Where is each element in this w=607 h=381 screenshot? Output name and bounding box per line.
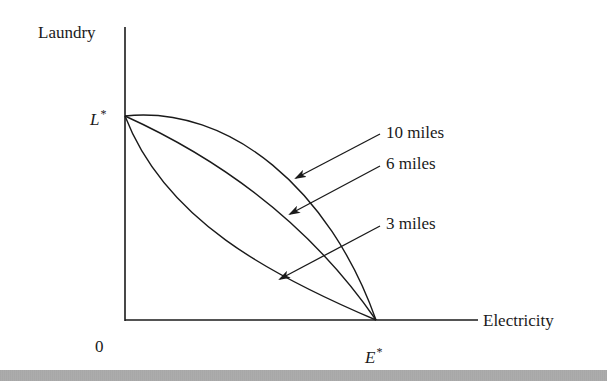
origin-label: 0 bbox=[95, 338, 104, 355]
arrow-3-miles bbox=[280, 226, 380, 279]
arrow-6-miles bbox=[290, 166, 380, 214]
production-possibilities-diagram: Laundry Electricity 0 L* E* 10 miles 6 m… bbox=[0, 0, 607, 381]
curve-6-miles bbox=[125, 116, 376, 320]
arrow-10-miles bbox=[296, 134, 380, 178]
y-intercept-label: L* bbox=[90, 108, 106, 128]
x-intercept-label: E* bbox=[365, 346, 382, 366]
curve-label-6-miles: 6 miles bbox=[386, 155, 436, 172]
x-axis-label: Electricity bbox=[483, 312, 554, 329]
curve-10-miles bbox=[125, 115, 376, 320]
bottom-border-strip bbox=[0, 370, 607, 381]
curve-3-miles bbox=[125, 116, 376, 320]
y-axis-label: Laundry bbox=[38, 24, 96, 41]
curve-label-10-miles: 10 miles bbox=[386, 124, 444, 141]
curve-label-3-miles: 3 miles bbox=[386, 215, 436, 232]
